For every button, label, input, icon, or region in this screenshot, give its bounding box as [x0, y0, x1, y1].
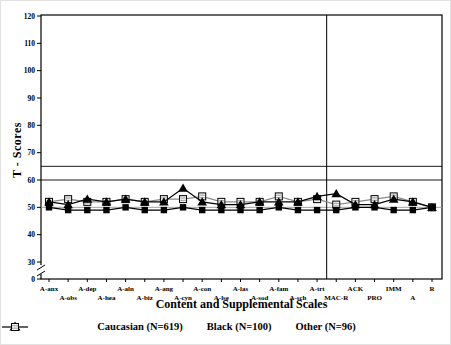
marker-filled-triangle — [331, 189, 341, 197]
x-tick-label-A-fam: A-fam — [269, 285, 288, 293]
x-tick-label-A-anx: A-anx — [40, 285, 59, 293]
marker-filled-square — [84, 207, 90, 213]
y-tick-label: 110 — [24, 39, 35, 48]
legend-label: Black (N=100) — [207, 321, 272, 332]
marker-filled-square — [103, 207, 109, 213]
x-tick-label-A-trt: A-trt — [310, 285, 326, 293]
marker-filled-square — [161, 207, 167, 213]
hatched-square-icon — [1, 321, 29, 333]
marker-filled-square — [295, 207, 301, 213]
marker-filled-square — [410, 207, 416, 213]
x-tick-label-ACK: ACK — [348, 285, 364, 293]
y-tick-label: 50 — [28, 203, 36, 212]
profile-chart: 030405060708090100110120A-anxA-obsA-depA… — [1, 1, 451, 321]
marker-filled-square — [180, 204, 186, 210]
marker-filled-square — [122, 204, 128, 210]
y-tick-label: 80 — [28, 121, 36, 130]
y-tick-label: 120 — [24, 12, 36, 21]
y-tick-label: 30 — [28, 258, 36, 267]
x-tick-label-A-aln: A-aln — [117, 285, 134, 293]
legend-item-other: Other (N=96) — [295, 321, 355, 332]
x-tick-label-A-con: A-con — [193, 285, 211, 293]
marker-hatched-square — [180, 196, 187, 203]
x-tick-label-A-dep: A-dep — [78, 285, 96, 293]
y-axis-title: T - Scores — [10, 90, 26, 210]
x-axis-title: Content and Supplemental Scales — [41, 297, 442, 312]
legend-label: Other (N=96) — [295, 321, 355, 332]
chart-figure: 030405060708090100110120A-anxA-obsA-depA… — [0, 0, 451, 345]
marker-filled-square — [199, 207, 205, 213]
x-tick-label-A-las: A-las — [233, 285, 249, 293]
y-tick-label: 70 — [28, 148, 36, 157]
marker-filled-square — [314, 207, 320, 213]
legend-label: Caucasian (N=619) — [97, 321, 183, 332]
legend-item-caucasian: Caucasian (N=619) — [97, 321, 183, 332]
x-tick-label-IMM: IMM — [386, 285, 402, 293]
marker-filled-square — [256, 207, 262, 213]
x-tick-label-A-ang: A-ang — [155, 285, 174, 293]
y-tick-label: 60 — [28, 176, 36, 185]
plot-border — [41, 15, 442, 279]
marker-filled-triangle — [178, 184, 188, 192]
y-tick-label: 90 — [28, 94, 36, 103]
x-tick-label-R: R — [429, 285, 435, 293]
marker-filled-square — [333, 207, 339, 213]
chart-legend: Caucasian (N=619) Black (N=100) Other (N… — [1, 321, 451, 332]
y-tick-label: 100 — [24, 66, 36, 75]
y-tick-label: 40 — [28, 230, 36, 239]
marker-filled-square — [391, 207, 397, 213]
legend-item-black: Black (N=100) — [207, 321, 272, 332]
marker-filled-square — [142, 207, 148, 213]
y-tick-label: 0 — [31, 275, 35, 284]
